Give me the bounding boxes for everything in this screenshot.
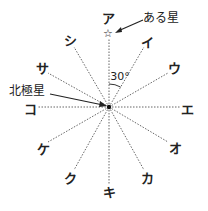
direction-lines [37,38,180,184]
label-shi: シ [64,34,77,47]
label-i: イ [141,36,154,49]
label-e: エ [181,103,194,116]
polaris-label: 北極星 [9,85,45,97]
label-ku: ク [64,172,77,185]
label-u: ウ [168,62,181,75]
star-arrowhead [115,27,122,33]
label-ko: コ [24,103,37,116]
angle-arc [109,84,121,87]
polaris-dot [107,105,111,109]
label-a: ア [102,12,115,25]
label-ka: カ [141,172,154,185]
star-label: ある星 [143,12,179,24]
label-ke: ケ [37,143,50,156]
star-icon: ☆ [103,28,113,39]
label-o: オ [169,142,182,155]
star-arrow [118,20,143,31]
angle-label: 30° [110,71,130,82]
label-ki: キ [103,186,116,199]
label-sa: サ [36,62,49,75]
